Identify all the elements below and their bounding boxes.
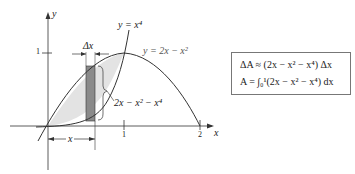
formula-box: ΔA ≈ (2x − x² − x⁴) Δx A = ∫₀¹(2x − x² −… bbox=[231, 52, 351, 95]
x-tick-label-1: 1 bbox=[122, 130, 126, 139]
strip-height-label: 2x − x² − x⁴ bbox=[114, 97, 162, 108]
parabola-label: y = 2x − x² bbox=[143, 45, 188, 56]
area-integral-formula: A = ∫₀¹(2x − x² − x⁴) dx bbox=[240, 76, 333, 87]
delta-area-formula: ΔA ≈ (2x − x² − x⁴) Δx bbox=[240, 59, 332, 70]
dx-arrow-right-icon bbox=[95, 52, 100, 56]
quartic-label: y = x⁴ bbox=[118, 19, 142, 30]
x-tick-label-2: 2 bbox=[198, 130, 202, 139]
area-strip bbox=[86, 66, 95, 121]
x-axis-arrow-icon bbox=[207, 124, 214, 129]
y-axis-arrow-icon bbox=[46, 12, 51, 19]
y-tick-label-1: 1 bbox=[36, 47, 40, 56]
delta-x-label: Δx bbox=[83, 40, 93, 51]
dx-arrow-left-icon bbox=[81, 52, 86, 56]
y-axis-label: y bbox=[52, 8, 56, 19]
x-position-label: x bbox=[66, 133, 74, 144]
x-axis-label: x bbox=[214, 127, 218, 138]
